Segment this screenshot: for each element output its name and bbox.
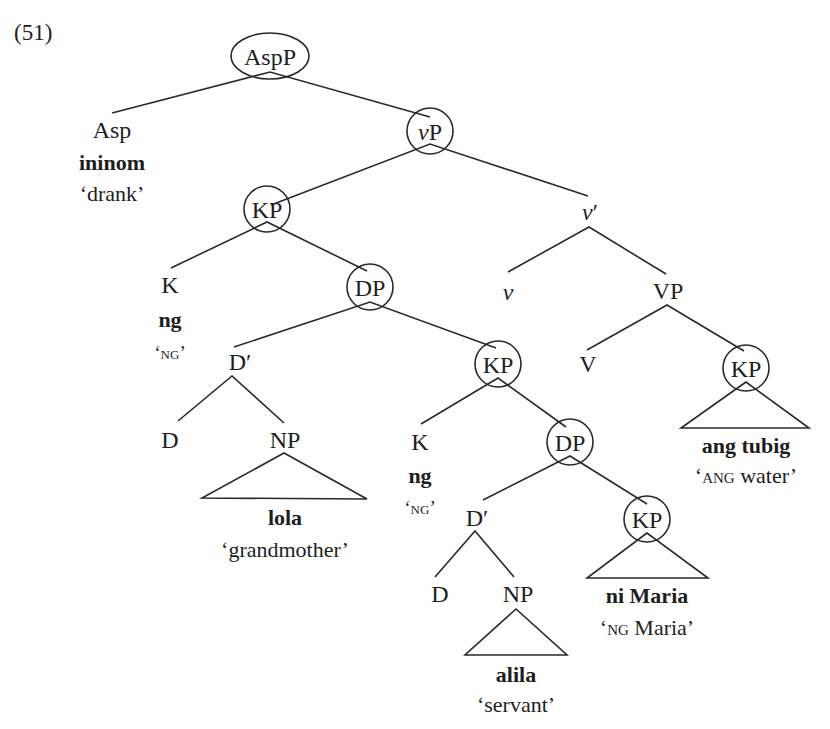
gloss-servant: ‘servant’ [477,694,555,716]
word-lola: lola [268,507,302,529]
gloss-ng-maria: ‘ng Maria’ [600,617,694,639]
gloss-ang-water: ‘ang water’ [695,465,797,487]
node-dbar-2: D′ [466,506,489,530]
node-d-2: D [431,582,448,606]
gloss-ng-2: ‘ng’ [404,498,435,517]
gloss-grandmother: ‘grandmother’ [221,539,349,561]
node-np-2: NP [503,582,534,606]
node-asp: Asp [93,118,132,142]
little-v-symbol: v [418,119,429,145]
word-ni-maria: ni Maria [606,585,689,607]
node-kp1: KP [252,198,283,222]
node-k1: K [161,273,178,297]
node-dp1: DP [355,276,386,300]
word-alila: alila [496,664,536,686]
word-ang-tubig: ang tubig [702,435,791,457]
word-ng-1: ng [158,309,181,331]
node-kp3: KP [731,357,762,381]
node-kp2: KP [483,353,514,377]
gloss-ng-1: ‘ng’ [154,343,185,362]
node-little-v: v [503,280,514,304]
node-vbar: v′ [582,200,598,224]
node-d-1: D [161,428,178,452]
tree-edges [0,0,830,729]
gloss-drank: ‘drank’ [80,183,145,205]
word-ininom: ininom [79,152,145,174]
node-aspp: AspP [244,45,296,69]
node-vp: VP [653,279,684,303]
word-ng-2: ng [408,465,431,487]
node-dbar-1: D′ [229,350,252,374]
node-little-vp: vP [418,120,442,144]
node-v: V [579,352,596,376]
node-k2: K [411,430,428,454]
node-kp4: KP [632,508,663,532]
node-np-1: NP [270,428,301,452]
node-dp2: DP [555,431,586,455]
